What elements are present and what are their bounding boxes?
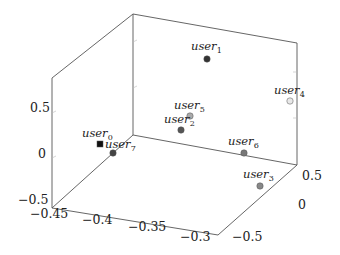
y-tick-label: 0.5 bbox=[302, 168, 322, 183]
point-label-user6: user6 bbox=[228, 134, 259, 150]
x-tick-label: −0.35 bbox=[128, 219, 166, 234]
y-tick-label: 0 bbox=[298, 197, 306, 212]
point-user1 bbox=[204, 56, 210, 62]
y-tick-label: −0.5 bbox=[232, 229, 262, 244]
point-label-user1: user1 bbox=[191, 39, 222, 55]
x-tick-label: −0.3 bbox=[180, 229, 210, 244]
point-user3 bbox=[257, 183, 263, 189]
x-tick-label: −0.45 bbox=[30, 206, 68, 221]
point-label-user7: user7 bbox=[105, 137, 136, 153]
point-user0 bbox=[97, 141, 103, 147]
z-tick-label: 0 bbox=[38, 146, 46, 161]
frame-floor-back bbox=[133, 135, 297, 165]
point-user4 bbox=[287, 98, 293, 104]
x-tick-label: −0.4 bbox=[82, 212, 112, 227]
frame-left-wall bbox=[52, 14, 133, 208]
data-points: user0user7user1user5user2user4user6user3 bbox=[82, 39, 305, 189]
z-tick-label: −0.5 bbox=[18, 192, 48, 207]
z-tick-label: 0.5 bbox=[30, 100, 50, 115]
point-label-user3: user3 bbox=[243, 167, 274, 183]
point-user6 bbox=[241, 150, 247, 156]
point-user2 bbox=[178, 127, 184, 133]
point-label-user4: user4 bbox=[274, 83, 305, 99]
scatter-3d-chart: 0.50−0.5−0.45−0.4−0.35−0.30.50−0.5 user0… bbox=[0, 0, 340, 255]
frame-back-wall bbox=[133, 14, 297, 165]
